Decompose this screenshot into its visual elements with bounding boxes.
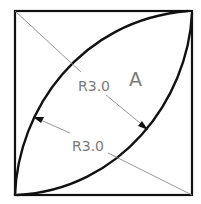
upper-leader-line (15, 11, 81, 72)
lower-leader-line (108, 153, 192, 195)
arrowhead-left-icon (33, 117, 44, 123)
region-label-a: A (129, 68, 142, 90)
lower-right-arc (17, 13, 192, 195)
upper-radius-label: R3.0 (78, 78, 110, 94)
technical-drawing: A R3.0 R3.0 (0, 0, 201, 204)
upper-dimension-arrow-line (106, 95, 146, 128)
lower-radius-label: R3.0 (72, 138, 104, 154)
